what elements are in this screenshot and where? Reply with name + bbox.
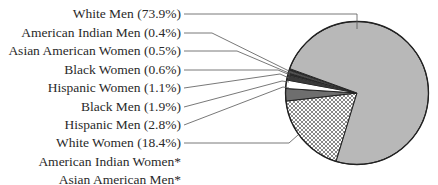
leader-line (184, 74, 289, 88)
pie-slices (286, 21, 429, 164)
pie-chart (0, 0, 438, 185)
leader-line (184, 135, 298, 143)
leader-line (184, 70, 290, 75)
leader-line (184, 33, 291, 72)
leader-line (184, 81, 289, 107)
